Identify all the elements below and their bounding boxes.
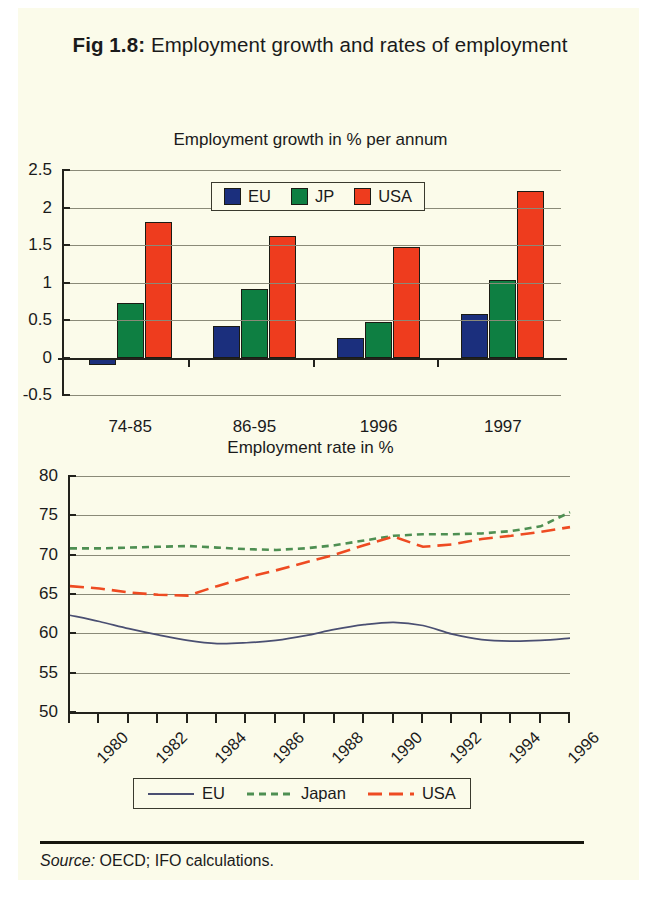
legend2-item-usa: USA — [368, 784, 456, 803]
line-y-tick-label: 80 — [6, 466, 58, 486]
line-x-tick — [303, 714, 305, 723]
line-x-tick-label: 1992 — [446, 728, 485, 767]
bar-y-tick-label: 0.5 — [4, 310, 52, 330]
bar-gridline — [64, 320, 561, 321]
bar-y-tick — [62, 169, 70, 171]
bar-y-tick-label: 0 — [4, 348, 52, 368]
line-x-tick — [244, 714, 246, 723]
line-series-eu — [70, 615, 570, 643]
source-prefix: Source: — [40, 852, 95, 869]
bar-x-tick-label: 86-95 — [233, 417, 276, 437]
line-x-tick — [68, 714, 70, 723]
bar-gridline — [64, 245, 561, 246]
bar-jp-1997 — [489, 280, 516, 357]
bar-y-tick — [62, 394, 70, 396]
figure-page: Fig 1.8: Employment growth and rates of … — [0, 0, 657, 899]
legend-item-jp: JP — [291, 187, 334, 206]
figure-title-text: Employment growth and rates of employmen… — [151, 33, 568, 56]
line-x-tick-label: 1986 — [269, 728, 308, 767]
line-chart-legend: EUJapanUSA — [133, 778, 471, 809]
legend-label: JP — [315, 187, 334, 206]
line-series-group — [70, 476, 570, 712]
line-x-tick — [97, 714, 99, 723]
bar-chart-title: Employment growth in % per annum — [0, 130, 621, 150]
legend2-line-usa-icon — [368, 789, 414, 799]
legend2-item-eu: EU — [148, 784, 225, 803]
line-x-tick — [156, 714, 158, 723]
line-y-tick-label: 60 — [6, 623, 58, 643]
bar-x-tick — [437, 358, 439, 367]
legend2-item-japan: Japan — [247, 784, 346, 803]
line-y-tick — [68, 711, 76, 713]
bar-usa-86-95 — [269, 236, 296, 358]
legend2-label: Japan — [301, 784, 346, 803]
line-y-tick — [68, 554, 76, 556]
legend-item-eu: EU — [224, 187, 271, 206]
line-series-japan — [70, 512, 570, 550]
bar-gridline — [64, 283, 561, 284]
bar-x-tick-label: 1996 — [360, 417, 398, 437]
bar-chart-panel: Employment growth in % per annum 2.521.5… — [0, 130, 621, 430]
bar-eu-86-95 — [213, 326, 240, 358]
figure-title: Fig 1.8: Employment growth and rates of … — [40, 30, 600, 59]
line-x-tick — [480, 714, 482, 723]
legend2-label: USA — [422, 784, 456, 803]
bar-x-tick — [188, 358, 190, 367]
line-x-tick — [539, 714, 541, 723]
line-x-tick — [186, 714, 188, 723]
line-chart-title: Employment rate in % — [0, 438, 621, 458]
line-y-tick-label: 65 — [6, 584, 58, 604]
bar-x-tick-label: 1997 — [484, 417, 522, 437]
line-x-tick — [215, 714, 217, 723]
line-x-tick — [509, 714, 511, 723]
legend-swatch-usa-icon — [354, 188, 371, 205]
line-y-tick-label: 50 — [6, 702, 58, 722]
bar-gridline — [64, 395, 561, 396]
bar-eu-1996 — [337, 338, 364, 358]
bar-y-tick — [62, 357, 70, 359]
line-x-tick — [274, 714, 276, 723]
line-y-tick-label: 75 — [6, 505, 58, 525]
bar-usa-1997 — [517, 191, 544, 358]
legend2-line-eu-icon — [148, 789, 194, 799]
line-x-tick-label: 1988 — [328, 728, 367, 767]
line-x-tick — [568, 714, 570, 723]
bar-y-tick — [62, 244, 70, 246]
bar-y-tick-label: -0.5 — [4, 385, 52, 405]
bar-chart-legend: EUJPUSA — [211, 182, 425, 211]
source-note: Source: OECD; IFO calculations. — [40, 852, 274, 870]
line-x-tick-label: 1990 — [387, 728, 426, 767]
bar-y-tick-label: 2.5 — [4, 160, 52, 180]
bar-usa-74-85 — [145, 222, 172, 358]
line-y-tick-label: 55 — [6, 663, 58, 683]
line-x-tick — [362, 714, 364, 723]
line-chart-panel: Employment rate in % 80757065605550 1980… — [0, 438, 621, 828]
line-y-tick-label: 70 — [6, 545, 58, 565]
bar-gridline — [64, 170, 561, 171]
legend-swatch-eu-icon — [224, 188, 241, 205]
bar-jp-86-95 — [241, 289, 268, 358]
line-x-tick-label: 1980 — [93, 728, 132, 767]
legend-label: EU — [248, 187, 271, 206]
line-x-tick — [421, 714, 423, 723]
bar-y-tick — [62, 282, 70, 284]
line-x-tick-label: 1984 — [210, 728, 249, 767]
line-x-tick — [333, 714, 335, 723]
bar-y-tick — [62, 207, 70, 209]
legend-item-usa: USA — [354, 187, 412, 206]
bar-y-tick-label: 2 — [4, 198, 52, 218]
line-y-tick — [68, 593, 76, 595]
line-x-tick — [127, 714, 129, 723]
line-series-usa — [70, 527, 570, 595]
line-x-axis — [68, 712, 570, 714]
figure-label: Fig 1.8: — [73, 33, 146, 56]
line-y-tick — [68, 475, 76, 477]
line-x-tick — [392, 714, 394, 723]
line-x-tick — [450, 714, 452, 723]
bar-x-tick-label: 74-85 — [108, 417, 151, 437]
line-y-tick — [68, 672, 76, 674]
legend-swatch-jp-icon — [291, 188, 308, 205]
line-y-tick — [68, 514, 76, 516]
bar-y-tick-label: 1 — [4, 273, 52, 293]
bar-jp-74-85 — [117, 303, 144, 358]
